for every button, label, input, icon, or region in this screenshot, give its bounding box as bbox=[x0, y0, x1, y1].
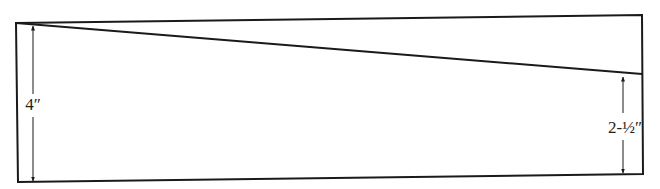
dimension-right-label: 2-½″ bbox=[608, 118, 642, 137]
diagram-canvas: 4″ 2-½″ bbox=[0, 0, 660, 189]
diagonal-cut-line bbox=[16, 23, 642, 74]
board-outline bbox=[16, 15, 643, 182]
dimension-right: 2-½″ bbox=[608, 77, 642, 173]
dimension-left: 4″ bbox=[25, 26, 41, 181]
dimension-left-label: 4″ bbox=[25, 95, 41, 114]
